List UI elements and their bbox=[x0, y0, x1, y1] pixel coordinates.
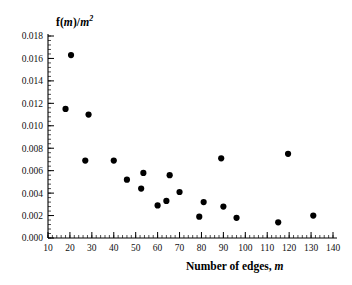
y-tick-label: 0.018 bbox=[22, 31, 44, 41]
data-point bbox=[163, 198, 169, 204]
data-point bbox=[138, 186, 144, 192]
x-tick-label: 130 bbox=[304, 243, 319, 253]
y-tick-label: 0.014 bbox=[22, 76, 44, 86]
x-tick-label: 50 bbox=[131, 243, 141, 253]
data-point bbox=[155, 202, 161, 208]
data-point bbox=[218, 155, 224, 161]
scatter-chart: 0.0000.0020.0040.0060.0080.0100.0120.014… bbox=[0, 0, 352, 285]
data-point bbox=[285, 151, 291, 157]
data-point bbox=[62, 106, 68, 112]
x-tick-label: 70 bbox=[175, 243, 185, 253]
x-tick-label: 140 bbox=[326, 243, 341, 253]
data-point bbox=[111, 157, 117, 163]
data-point bbox=[220, 203, 226, 209]
data-point bbox=[176, 189, 182, 195]
x-axis-title: Number of edges, m bbox=[186, 260, 284, 272]
x-tick-label: 60 bbox=[153, 243, 163, 253]
x-tick-label: 10 bbox=[43, 243, 53, 253]
data-point bbox=[233, 215, 239, 221]
data-point bbox=[275, 219, 281, 225]
x-tick-label: 120 bbox=[282, 243, 297, 253]
data-point bbox=[310, 212, 316, 218]
y-tick-label: 0.000 bbox=[22, 233, 44, 243]
data-point bbox=[82, 157, 88, 163]
x-tick-label: 40 bbox=[109, 243, 119, 253]
data-point bbox=[196, 214, 202, 220]
y-tick-label: 0.008 bbox=[22, 144, 44, 154]
data-point bbox=[124, 177, 130, 183]
x-tick-label: 20 bbox=[65, 243, 75, 253]
y-tick-label: 0.002 bbox=[22, 211, 44, 221]
y-tick-label: 0.012 bbox=[22, 99, 44, 109]
x-tick-label: 90 bbox=[219, 243, 229, 253]
y-tick-label: 0.006 bbox=[22, 166, 44, 176]
y-tick-label: 0.004 bbox=[22, 189, 44, 199]
x-tick-label: 110 bbox=[260, 243, 274, 253]
plot-area: 0.0000.0020.0040.0060.0080.0100.0120.014… bbox=[0, 0, 352, 285]
data-point bbox=[68, 52, 74, 58]
y-tick-label: 0.016 bbox=[22, 54, 44, 64]
x-tick-label: 100 bbox=[238, 243, 253, 253]
x-tick-label: 80 bbox=[197, 243, 207, 253]
data-point bbox=[140, 170, 146, 176]
y-tick-label: 0.010 bbox=[22, 121, 44, 131]
y-axis-title: f(m)/m2 bbox=[56, 14, 93, 28]
data-point bbox=[85, 111, 91, 117]
x-tick-label: 30 bbox=[87, 243, 97, 253]
data-point bbox=[167, 172, 173, 178]
data-point bbox=[201, 199, 207, 205]
